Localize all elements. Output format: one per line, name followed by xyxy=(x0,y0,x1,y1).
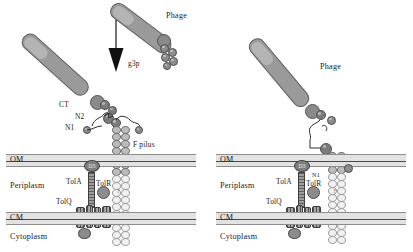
cytoplasmic-membrane-band xyxy=(216,212,406,225)
tolr-label: TolR xyxy=(96,180,111,187)
pilus-unknown-marker: ? xyxy=(333,188,336,194)
tola-stalk xyxy=(298,172,305,208)
panel-translocation: Phage ? OM N1 P xyxy=(210,0,413,252)
om-label: OM xyxy=(10,156,24,164)
periplasm-label: Periplasm xyxy=(10,182,45,190)
cm-label: CM xyxy=(220,214,233,222)
tola-label: TolA xyxy=(276,178,292,185)
g3p-linker-squiggle-right xyxy=(298,118,338,152)
tolq-cytoplasmic-domain xyxy=(78,228,91,239)
n1-label-right: N1 xyxy=(312,172,320,178)
tolq-label: TolQ xyxy=(56,198,72,205)
tolr-label: TolR xyxy=(306,180,321,187)
tolq-label: TolQ xyxy=(266,198,282,205)
figure-canvas: Phage g3p CT N2 N1 xyxy=(0,0,413,252)
phage-label-right: Phage xyxy=(320,63,341,71)
n1-label: N1 xyxy=(65,124,74,131)
cytoplasm-label: Cytoplasm xyxy=(220,233,257,241)
pilus-unknown-marker: ? xyxy=(117,188,120,194)
g3p-domain-blob xyxy=(163,62,171,70)
f-pilus-label: F pilus xyxy=(133,141,155,148)
tola-label: TolA xyxy=(66,178,82,185)
cytoplasm-label: Cytoplasm xyxy=(10,233,47,241)
phage-label-incoming: Phage xyxy=(166,12,187,20)
n2-label: N2 xyxy=(75,113,84,120)
om-label: OM xyxy=(220,156,234,164)
downward-arrow-icon xyxy=(105,20,127,72)
tola-d3-domain: D3 xyxy=(84,160,100,172)
cm-label: CM xyxy=(10,214,23,222)
n1-released-blob xyxy=(344,164,353,173)
panel-initial-binding: Phage g3p CT N2 N1 xyxy=(0,0,200,252)
tolq-cytoplasmic-domain xyxy=(288,228,301,239)
ct-label: CT xyxy=(59,101,69,108)
phage-body-right xyxy=(245,35,312,110)
cytoplasmic-membrane-band xyxy=(6,212,196,225)
g3p-label: g3p xyxy=(128,60,140,67)
tola-stalk xyxy=(88,172,95,208)
tola-d3-domain: D3 xyxy=(294,160,310,172)
outer-membrane-band xyxy=(216,154,406,167)
periplasm-label: Periplasm xyxy=(220,182,255,190)
phage-body-attached xyxy=(18,30,92,99)
outer-membrane-band xyxy=(6,154,196,167)
